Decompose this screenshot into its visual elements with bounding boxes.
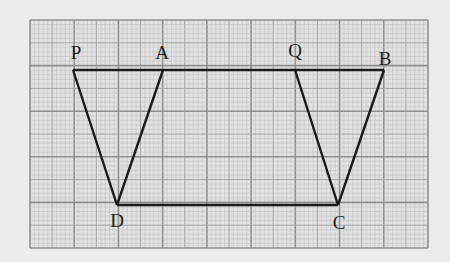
point-label-p: P: [71, 43, 82, 62]
point-label-d: D: [110, 211, 124, 230]
point-label-a: A: [155, 43, 169, 62]
point-label-c: C: [333, 213, 346, 232]
point-label-q: Q: [288, 41, 302, 60]
point-label-b: B: [379, 49, 392, 68]
parallelograms-figure: [0, 0, 450, 262]
diagram-stage: P A Q B D C: [0, 0, 450, 262]
